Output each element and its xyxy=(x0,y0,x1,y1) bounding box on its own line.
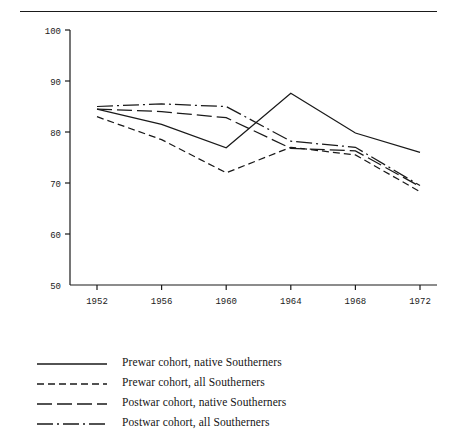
y-tick-label: 100 xyxy=(45,27,61,37)
legend-label: Prewar cohort, native Southerners xyxy=(122,356,282,368)
x-axis-tick-group xyxy=(97,285,420,290)
data-series-group xyxy=(97,93,420,191)
x-tick-label: 1968 xyxy=(345,297,367,307)
legend-item: Prewar cohort, native Southerners xyxy=(36,352,376,372)
legend-line-swatch xyxy=(36,356,108,368)
y-axis-tick-group xyxy=(65,30,70,234)
axis-lines xyxy=(70,30,437,285)
series-line-3 xyxy=(97,104,420,186)
legend-item: Prewar cohort, all Southerners xyxy=(36,372,376,392)
chart-legend: Prewar cohort, native SouthernersPrewar … xyxy=(36,352,376,432)
y-tick-label: 50 xyxy=(50,282,61,292)
legend-item: Postwar cohort, native Southerners xyxy=(36,392,376,412)
y-tick-label: 60 xyxy=(50,231,61,241)
series-line-1 xyxy=(97,117,420,192)
y-axis-labels: 5060708090100 xyxy=(45,27,61,292)
x-tick-label: 1960 xyxy=(215,297,237,307)
y-tick-label: 70 xyxy=(50,180,61,190)
legend-line-swatch xyxy=(36,416,108,428)
series-line-0 xyxy=(97,93,420,152)
legend-label: Postwar cohort, all Southerners xyxy=(122,416,269,428)
legend-label: Postwar cohort, native Southerners xyxy=(122,396,286,408)
x-axis-labels: 195219561960196419681972 xyxy=(86,297,431,307)
y-tick-label: 80 xyxy=(50,129,61,139)
x-tick-label: 1972 xyxy=(409,297,431,307)
legend-label: Prewar cohort, all Southerners xyxy=(122,376,265,388)
figure-container: 5060708090100 195219561960196419681972 P… xyxy=(0,0,453,432)
x-tick-label: 1964 xyxy=(280,297,302,307)
x-tick-label: 1952 xyxy=(86,297,108,307)
legend-item: Postwar cohort, all Southerners xyxy=(36,412,376,432)
legend-line-swatch xyxy=(36,376,108,388)
y-tick-label: 90 xyxy=(50,78,61,88)
x-tick-label: 1956 xyxy=(151,297,173,307)
legend-line-swatch xyxy=(36,396,108,408)
